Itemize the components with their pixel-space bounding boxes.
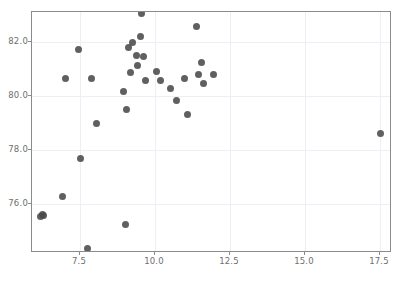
gridline-horizontal-80.0 (32, 96, 390, 97)
data-point (173, 97, 180, 104)
data-point (181, 75, 188, 82)
x-tickmark-17.5 (379, 252, 380, 255)
data-point (134, 62, 141, 69)
x-axis-tick-label: 7.5 (72, 256, 86, 266)
data-point (84, 245, 91, 252)
data-point (157, 77, 164, 84)
data-point (167, 85, 174, 92)
data-point (153, 68, 160, 75)
data-point (59, 193, 66, 200)
data-point (137, 33, 144, 40)
data-point (133, 52, 140, 59)
data-point (77, 155, 84, 162)
data-point (120, 88, 127, 95)
y-tickmark-78.0 (28, 149, 31, 150)
data-point (195, 71, 202, 78)
gridline-horizontal-82.0 (32, 42, 390, 43)
x-tickmark-7.5 (79, 252, 80, 255)
x-tickmark-15.0 (304, 252, 305, 255)
gridline-horizontal-76.0 (32, 204, 390, 205)
y-axis-tick-label: 76.0 (8, 198, 28, 208)
data-point (138, 11, 145, 17)
data-point (184, 111, 191, 118)
data-point (93, 120, 100, 127)
x-tickmark-12.5 (229, 252, 230, 255)
data-point (62, 75, 69, 82)
data-point (129, 39, 136, 46)
x-axis-tick-label: 15.0 (294, 256, 314, 266)
plot-axes-area (31, 11, 391, 252)
gridline-vertical-10.0 (155, 12, 156, 251)
y-tickmark-82.0 (28, 41, 31, 42)
gridline-horizontal-78.0 (32, 150, 390, 151)
data-point (142, 77, 149, 84)
data-point (75, 46, 82, 53)
data-point (88, 75, 95, 82)
x-axis-tick-label: 17.5 (369, 256, 389, 266)
x-axis-tick-label: 10.0 (144, 256, 164, 266)
y-axis-tick-label: 80.0 (8, 90, 28, 100)
data-point (200, 80, 207, 87)
y-axis-tick-label: 78.0 (8, 144, 28, 154)
x-axis-tick-label: 12.5 (219, 256, 239, 266)
data-point (377, 130, 384, 137)
scatter-plot-figure: 7.510.012.515.017.576.078.080.082.0 (0, 0, 402, 281)
data-point (140, 53, 147, 60)
data-point (40, 212, 47, 219)
y-axis-tick-label: 82.0 (8, 36, 28, 46)
data-point (122, 221, 129, 228)
data-point (198, 59, 205, 66)
gridline-vertical-12.5 (230, 12, 231, 251)
x-tickmark-10.0 (154, 252, 155, 255)
data-point (127, 69, 134, 76)
data-point (210, 71, 217, 78)
gridline-vertical-15.0 (305, 12, 306, 251)
data-point (123, 106, 130, 113)
y-tickmark-80.0 (28, 95, 31, 96)
data-point (193, 23, 200, 30)
y-tickmark-76.0 (28, 203, 31, 204)
